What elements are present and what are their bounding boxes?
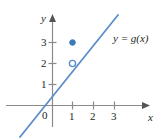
y-axis-label: y [41,13,46,24]
origin-label: 0 [42,110,48,121]
filled-circle-point [70,40,76,46]
x-axis-label: x [148,112,153,123]
function-graph-figure: y x 0 1 2 3 1 2 3 y = g(x) [0,0,161,138]
y-axis-arrow-icon [49,14,56,22]
y-tick-label-3: 3 [41,37,47,48]
y-tick-label-2: 2 [41,58,47,69]
y-tick-label-1: 1 [41,79,47,90]
x-tick-label-2: 2 [90,111,96,122]
x-tick-label-1: 1 [69,111,75,122]
open-circle-point [69,60,75,66]
coordinate-plane [0,0,161,138]
curve-equation-label: y = g(x) [113,33,149,44]
x-axis-arrow-icon [142,102,150,109]
x-tick-label-3: 3 [111,111,117,122]
